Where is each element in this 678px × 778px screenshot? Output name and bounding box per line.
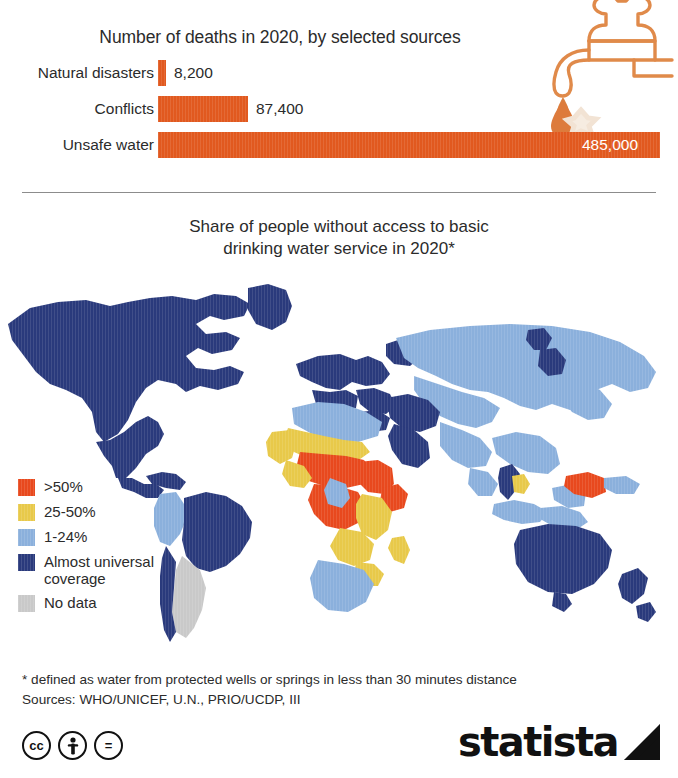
bar-fill bbox=[158, 96, 248, 122]
section-divider bbox=[22, 192, 656, 193]
bar-list: Natural disasters 8,200 Conflicts 87,400… bbox=[0, 60, 678, 168]
legend-swatch bbox=[18, 479, 35, 496]
legend-swatch bbox=[18, 529, 35, 546]
map-legend: >50% 25-50% 1-24% Almost universal cover… bbox=[18, 478, 233, 619]
legend-item-25-50: 25-50% bbox=[18, 503, 233, 521]
bar-value: 87,400 bbox=[256, 100, 303, 118]
legend-swatch bbox=[18, 504, 35, 521]
world-map: >50% 25-50% 1-24% Almost universal cover… bbox=[0, 272, 678, 660]
bar-label: Conflicts bbox=[0, 100, 154, 118]
bar-row: Unsafe water 485,000 bbox=[0, 132, 678, 164]
legend-item-1-24: 1-24% bbox=[18, 528, 233, 546]
cc-icon: cc bbox=[22, 731, 51, 760]
legend-swatch bbox=[18, 554, 35, 571]
bar-label: Unsafe water bbox=[0, 136, 154, 154]
bar-row: Conflicts 87,400 bbox=[0, 96, 678, 128]
legend-swatch bbox=[18, 595, 35, 612]
bar-track: 485,000 bbox=[158, 132, 678, 158]
statista-logo: statista bbox=[458, 722, 662, 762]
bar-label: Natural disasters bbox=[0, 64, 154, 82]
bar-fill bbox=[158, 60, 166, 86]
statista-mark-icon bbox=[622, 722, 662, 762]
cc-nd-equals-icon: = bbox=[94, 731, 123, 760]
creative-commons-badges: cc = bbox=[22, 731, 123, 760]
legend-label: Almost universal coverage bbox=[44, 553, 154, 587]
sources-line: Sources: WHO/UNICEF, U.N., PRIO/UCDP, II… bbox=[22, 692, 662, 707]
footnote: * defined as water from protected wells … bbox=[22, 672, 662, 687]
person-glyph bbox=[66, 737, 80, 755]
legend-label-line-1: Almost universal bbox=[44, 553, 154, 570]
infographic-page: Number of deaths in 2020, by selected so… bbox=[0, 0, 678, 778]
bar-chart-title: Number of deaths in 2020, by selected so… bbox=[0, 27, 560, 48]
bar-value: 485,000 bbox=[582, 136, 638, 154]
bar-value: 8,200 bbox=[174, 64, 213, 82]
cc-by-person-icon bbox=[58, 731, 87, 760]
legend-label: No data bbox=[44, 594, 97, 611]
bar-track: 8,200 bbox=[158, 60, 678, 86]
legend-label-line-2: coverage bbox=[44, 570, 154, 587]
legend-item-above-50: >50% bbox=[18, 478, 233, 496]
map-title-line-2: drinking water service in 2020* bbox=[0, 238, 678, 260]
legend-label: >50% bbox=[44, 478, 83, 495]
bar-track: 87,400 bbox=[158, 96, 678, 122]
map-title: Share of people without access to basic … bbox=[0, 216, 678, 260]
legend-item-no-data: No data bbox=[18, 594, 233, 612]
statista-wordmark: statista bbox=[458, 723, 618, 761]
legend-label: 1-24% bbox=[44, 528, 87, 545]
legend-label: 25-50% bbox=[44, 503, 96, 520]
bar-chart-section: Number of deaths in 2020, by selected so… bbox=[0, 0, 678, 196]
bar-row: Natural disasters 8,200 bbox=[0, 60, 678, 92]
map-title-line-1: Share of people without access to basic bbox=[0, 216, 678, 238]
legend-item-universal: Almost universal coverage bbox=[18, 553, 233, 587]
